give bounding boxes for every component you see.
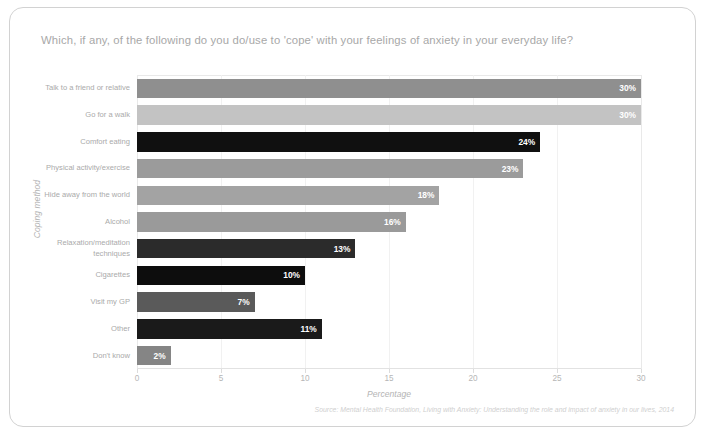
bar-row: Visit my GP7% [137,289,641,316]
x-axis-title: Percentage [137,389,641,399]
x-tick-label: 20 [458,374,488,383]
y-axis-label: Relaxation/meditation techniques [31,235,137,262]
x-tick-mark [305,369,306,373]
bar-value-label: 11% [300,324,321,334]
bar: 10% [137,266,305,286]
x-tick-label: 10 [290,374,320,383]
y-axis-label: Hide away from the world [31,182,137,209]
y-axis-label: Alcohol [31,209,137,236]
bar-row: Talk to a friend or relative30% [137,75,641,102]
y-axis-label: Don't know [31,342,137,369]
bar: 13% [137,239,355,259]
bar: 30% [137,105,641,125]
y-axis-label: Go for a walk [31,102,137,129]
bar-value-label: 30% [619,110,641,120]
bar: 2% [137,346,171,366]
bar: 30% [137,79,641,99]
bar: 16% [137,212,406,232]
bar-row: Other11% [137,316,641,343]
bar-value-label: 10% [283,270,305,280]
y-axis-label: Comfort eating [31,128,137,155]
x-tick-label: 30 [626,374,656,383]
source-note: Source: Mental Health Foundation, Living… [315,406,674,413]
bar-value-label: 13% [334,244,356,254]
bar-row: Physical activity/exercise23% [137,155,641,182]
x-tick-label: 15 [374,374,404,383]
bar: 11% [137,319,322,339]
y-axis-label: Visit my GP [31,289,137,316]
x-tick-mark [389,369,390,373]
bar-row: Comfort eating24% [137,128,641,155]
x-tick-mark [557,369,558,373]
x-tick-mark [473,369,474,373]
bar-value-label: 30% [619,83,641,93]
bar-value-label: 2% [153,351,170,361]
x-tick-label: 5 [206,374,236,383]
bar-value-label: 23% [502,164,524,174]
bar-row: Alcohol16% [137,209,641,236]
x-tick-label: 25 [542,374,572,383]
x-tick-mark [137,369,138,373]
bar-rows: Talk to a friend or relative30%Go for a … [137,75,641,368]
bar: 18% [137,186,439,206]
y-axis-label: Other [31,316,137,343]
bar-row: Go for a walk30% [137,102,641,129]
x-tick-mark [641,369,642,373]
plot-area: Coping method Talk to a friend or relati… [10,8,697,428]
bar-value-label: 18% [418,190,440,200]
y-axis-label: Talk to a friend or relative [31,75,137,102]
bar-value-label: 24% [518,137,540,147]
bar-row: Relaxation/meditation techniques13% [137,235,641,262]
y-axis-label: Physical activity/exercise [31,155,137,182]
plot-border-right [641,75,642,369]
x-tick-mark [221,369,222,373]
bar-row: Cigarettes10% [137,262,641,289]
bar-row: Hide away from the world18% [137,182,641,209]
bar: 24% [137,132,540,152]
chart-card: Which, if any, of the following do you d… [9,7,696,427]
x-tick-label: 0 [122,374,152,383]
bar-row: Don't know2% [137,342,641,369]
bar: 7% [137,292,255,312]
bar: 23% [137,159,523,179]
y-axis-label: Cigarettes [31,262,137,289]
bar-value-label: 16% [384,217,406,227]
bar-value-label: 7% [237,297,254,307]
